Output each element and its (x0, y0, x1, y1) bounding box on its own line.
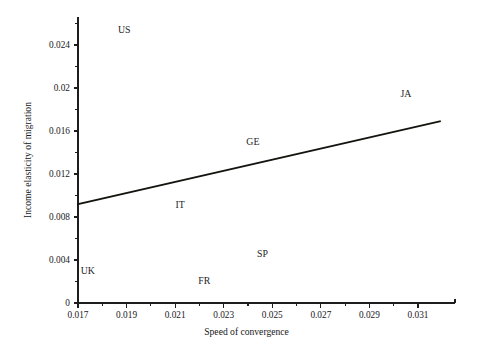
x-tick-label: 0.021 (165, 310, 186, 320)
y-tick-label: 0.012 (49, 169, 70, 179)
data-point-label-it: IT (175, 199, 184, 210)
data-point-label-ge: GE (246, 136, 259, 147)
data-point-label-fr: FR (198, 275, 210, 286)
x-axis-title: Speed of convergence (204, 326, 289, 337)
data-point-label-us: US (118, 24, 131, 35)
x-tick-label: 0.023 (213, 310, 234, 320)
data-point-label-uk: UK (81, 265, 95, 276)
y-tick-label: 0 (65, 298, 70, 308)
data-point-label-ja: JA (400, 88, 411, 99)
x-tick-label: 0.027 (310, 310, 331, 320)
y-tick-label: 0.008 (49, 212, 70, 222)
x-tick-label: 0.031 (408, 310, 429, 320)
x-tick-label: 0.025 (262, 310, 283, 320)
y-tick-label: 0.024 (49, 40, 70, 50)
x-tick-label: 0.019 (116, 310, 137, 320)
trend-line (78, 121, 440, 204)
tick-marks (74, 24, 456, 308)
tick-labels: 00.0040.0080.0120.0160.020.0240.0170.019… (49, 40, 429, 320)
regression-trend-line (78, 121, 440, 204)
scatter-plot-figure: 00.0040.0080.0120.0160.020.0240.0170.019… (0, 0, 480, 349)
y-tick-label: 0.016 (49, 126, 70, 136)
x-tick-label: 0.017 (68, 310, 89, 320)
y-tick-label: 0.004 (49, 255, 70, 265)
y-axis-title: Income elasticity of migration (22, 102, 33, 218)
y-tick-label: 0.02 (54, 83, 71, 93)
data-point-label-sp: SP (257, 248, 268, 259)
x-tick-label: 0.029 (359, 310, 380, 320)
chart-canvas: 00.0040.0080.0120.0160.020.0240.0170.019… (0, 0, 480, 349)
axes (78, 17, 455, 303)
data-point-labels: USJAGEITSPUKFR (81, 24, 412, 285)
